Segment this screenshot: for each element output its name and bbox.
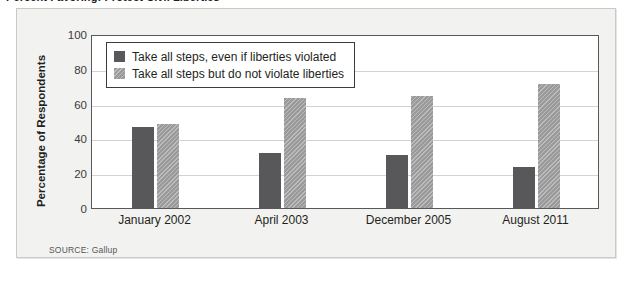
legend-item[interactable]: Take all steps but do not violate libert… [114,65,344,82]
y-axis-title: Percentage of Respondents [35,45,49,217]
legend-swatch-icon [114,68,125,79]
legend-swatch-icon [114,51,125,62]
legend-item[interactable]: Take all steps, even if liberties violat… [114,48,344,65]
x-tick-label: August 2011 [502,213,569,227]
bar[interactable] [284,98,306,208]
x-axis-tick-labels: January 2002April 2003December 2005Augus… [91,213,599,233]
x-tick-label: April 2003 [254,213,308,227]
chart-page: Percent Favoring: Protect Civil Libertie… [0,0,632,285]
y-tick-label: 0 [53,203,87,215]
x-tick-label: December 2005 [366,213,451,227]
figure-container: Percentage of Respondents 020406080100 T… [16,8,616,258]
y-tick-label: 40 [53,133,87,145]
bar[interactable] [386,155,408,208]
plot-area: Take all steps, even if liberties violat… [91,35,599,209]
legend-label: Take all steps, even if liberties violat… [132,50,336,64]
y-tick-label: 60 [53,99,87,111]
bar[interactable] [513,167,535,208]
y-axis-tick-labels: 020406080100 [49,35,87,209]
y-tick-label: 100 [53,29,87,41]
bar[interactable] [538,84,560,208]
y-tick-label: 20 [53,168,87,180]
legend-label: Take all steps but do not violate libert… [132,67,344,81]
page-title: Percent Favoring: Protect Civil Libertie… [6,0,220,3]
y-tick-label: 80 [53,64,87,76]
chart-legend: Take all steps, even if liberties violat… [106,42,355,88]
bar[interactable] [157,124,179,208]
bar[interactable] [411,96,433,208]
bar[interactable] [259,153,281,208]
bar-group [473,36,600,208]
source-note: SOURCE: Gallup [49,245,117,255]
bar[interactable] [132,127,154,208]
x-tick-label: January 2002 [118,213,191,227]
bar-group [346,36,473,208]
